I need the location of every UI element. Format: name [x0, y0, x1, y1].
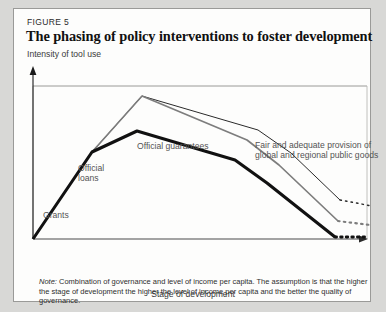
series-label-official-loans-line1: Official — [78, 163, 104, 173]
figure-note-prefix: Note: — [39, 277, 57, 286]
figure-number-label: FIGURE 5 — [27, 17, 69, 27]
figure-title: The phasing of policy interventions to f… — [26, 28, 368, 45]
figure-container: FIGURE 5 The phasing of policy intervent… — [13, 8, 371, 302]
series-dotted-tail-official-guarantees — [340, 200, 371, 206]
y-axis-label: Intensity of tool use — [27, 49, 101, 59]
annotation-public-goods-line2: global and regional public goods — [255, 150, 378, 160]
series-label-grants: Grants — [43, 211, 69, 221]
figure-note-text: Combination of governance and level of i… — [39, 277, 367, 305]
annotation-public-goods-line1: Fair and adequate provision of — [255, 140, 371, 150]
series-label-official-guarantees: Official guarantees — [137, 142, 209, 152]
chart-plot-area: Grants Official loans Official guarantee… — [15, 61, 371, 251]
figure-note: Note: Combination of governance and leve… — [39, 277, 369, 306]
y-axis-arrow-icon — [30, 66, 37, 75]
series-label-official-loans-line2: loans — [78, 173, 99, 183]
annotation-public-goods: Fair and adequate provision of global an… — [255, 141, 378, 160]
series-label-official-loans: Official loans — [78, 164, 104, 183]
series-dotted-tail-official-loans — [338, 221, 370, 225]
